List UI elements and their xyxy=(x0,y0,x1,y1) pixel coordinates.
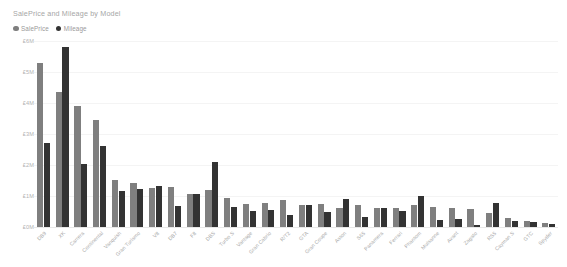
bar-saleprice[interactable] xyxy=(393,208,399,227)
bar-saleprice[interactable] xyxy=(505,218,511,227)
bar-saleprice[interactable] xyxy=(168,187,174,227)
bar-group[interactable] xyxy=(296,41,315,227)
bar-mileage[interactable] xyxy=(119,191,125,227)
bar-mileage[interactable] xyxy=(306,205,312,227)
bar-group[interactable] xyxy=(446,41,465,227)
x-axis-label-slot: Zagato xyxy=(465,229,484,267)
x-axis-tick-label: Ferrari xyxy=(388,230,403,245)
bar-group[interactable] xyxy=(71,41,90,227)
bar-saleprice[interactable] xyxy=(93,120,99,227)
bar-mileage[interactable] xyxy=(343,199,349,227)
bar-saleprice[interactable] xyxy=(149,188,155,227)
bar-saleprice[interactable] xyxy=(37,63,43,227)
bar-mileage[interactable] xyxy=(231,207,237,227)
x-axis-label-slot: XK xyxy=(53,229,72,267)
y-axis-tick-label: £4M xyxy=(23,100,34,106)
bar-mileage[interactable] xyxy=(137,189,143,227)
bar-mileage[interactable] xyxy=(81,164,87,227)
bar-group[interactable] xyxy=(390,41,409,227)
bar-group[interactable] xyxy=(240,41,259,227)
bar-saleprice[interactable] xyxy=(112,180,118,227)
bar-mileage[interactable] xyxy=(530,222,536,227)
bar-mileage[interactable] xyxy=(437,220,443,227)
bar-group[interactable] xyxy=(521,41,540,227)
bar-mileage[interactable] xyxy=(62,47,68,227)
bar-group[interactable] xyxy=(427,41,446,227)
bar-saleprice[interactable] xyxy=(224,198,230,227)
bar-saleprice[interactable] xyxy=(411,205,417,227)
x-axis-tick-label: GTC xyxy=(522,230,534,242)
bar-group[interactable] xyxy=(128,41,147,227)
x-axis-tick-label: DB7 xyxy=(167,230,179,242)
bar-saleprice[interactable] xyxy=(486,213,492,227)
bar-saleprice[interactable] xyxy=(56,92,62,227)
bar-group[interactable] xyxy=(465,41,484,227)
bar-saleprice[interactable] xyxy=(542,223,548,227)
bar-saleprice[interactable] xyxy=(74,106,80,227)
bar-saleprice[interactable] xyxy=(374,208,380,227)
bar-mileage[interactable] xyxy=(287,215,293,227)
bar-group[interactable] xyxy=(315,41,334,227)
bar-group[interactable] xyxy=(221,41,240,227)
bar-group[interactable] xyxy=(277,41,296,227)
y-axis-tick-label: £1M xyxy=(23,193,34,199)
bar-mileage[interactable] xyxy=(493,203,499,227)
bar-mileage[interactable] xyxy=(212,162,218,227)
bar-saleprice[interactable] xyxy=(187,194,193,227)
bar-saleprice[interactable] xyxy=(524,221,530,228)
bar-group[interactable] xyxy=(352,41,371,227)
bar-group[interactable] xyxy=(502,41,521,227)
x-axis-tick-label: Avant xyxy=(446,230,460,244)
x-axis-tick-label: R/T2 xyxy=(279,230,291,242)
bar-saleprice[interactable] xyxy=(262,203,268,227)
bar-mileage[interactable] xyxy=(362,217,368,227)
bar-saleprice[interactable] xyxy=(205,190,211,227)
bar-saleprice[interactable] xyxy=(449,208,455,227)
bar-saleprice[interactable] xyxy=(130,183,136,227)
bar-group[interactable] xyxy=(371,41,390,227)
bar-saleprice[interactable] xyxy=(355,205,361,227)
bar-series-container xyxy=(34,41,558,227)
bar-mileage[interactable] xyxy=(44,143,50,227)
bar-group[interactable] xyxy=(483,41,502,227)
bar-saleprice[interactable] xyxy=(318,204,324,227)
bar-group[interactable] xyxy=(90,41,109,227)
bar-group[interactable] xyxy=(165,41,184,227)
bar-mileage[interactable] xyxy=(250,211,256,227)
bar-group[interactable] xyxy=(146,41,165,227)
x-axis-tick-label: Zagato xyxy=(462,230,478,246)
bar-group[interactable] xyxy=(408,41,427,227)
bar-mileage[interactable] xyxy=(156,186,162,227)
bar-mileage[interactable] xyxy=(324,212,330,228)
bar-mileage[interactable] xyxy=(175,206,181,227)
x-axis-label-slot: Gran Turismo xyxy=(128,229,147,267)
bar-group[interactable] xyxy=(539,41,558,227)
bar-mileage[interactable] xyxy=(418,196,424,227)
bar-group[interactable] xyxy=(184,41,203,227)
bar-saleprice[interactable] xyxy=(467,209,473,227)
bar-saleprice[interactable] xyxy=(243,204,249,227)
bar-mileage[interactable] xyxy=(549,224,555,227)
bar-mileage[interactable] xyxy=(474,225,480,227)
bar-mileage[interactable] xyxy=(381,208,387,227)
bar-group[interactable] xyxy=(259,41,278,227)
bar-saleprice[interactable] xyxy=(336,208,342,227)
x-axis-tick-label: GTA xyxy=(298,230,310,242)
bar-saleprice[interactable] xyxy=(430,207,436,227)
bar-saleprice[interactable] xyxy=(299,205,305,227)
y-axis-tick-label: £3M xyxy=(23,131,34,137)
bar-mileage[interactable] xyxy=(193,194,199,227)
bar-group[interactable] xyxy=(109,41,128,227)
bar-mileage[interactable] xyxy=(455,219,461,227)
bar-mileage[interactable] xyxy=(512,221,518,227)
bar-group[interactable] xyxy=(334,41,353,227)
bar-saleprice[interactable] xyxy=(280,200,286,227)
bar-mileage[interactable] xyxy=(268,210,274,227)
x-axis-tick-label: DB9 xyxy=(36,230,48,242)
x-axis-tick-label: F8 xyxy=(189,230,198,239)
bar-mileage[interactable] xyxy=(100,146,106,227)
bar-mileage[interactable] xyxy=(399,211,405,227)
bar-group[interactable] xyxy=(53,41,72,227)
bar-group[interactable] xyxy=(202,41,221,227)
bar-group[interactable] xyxy=(34,41,53,227)
